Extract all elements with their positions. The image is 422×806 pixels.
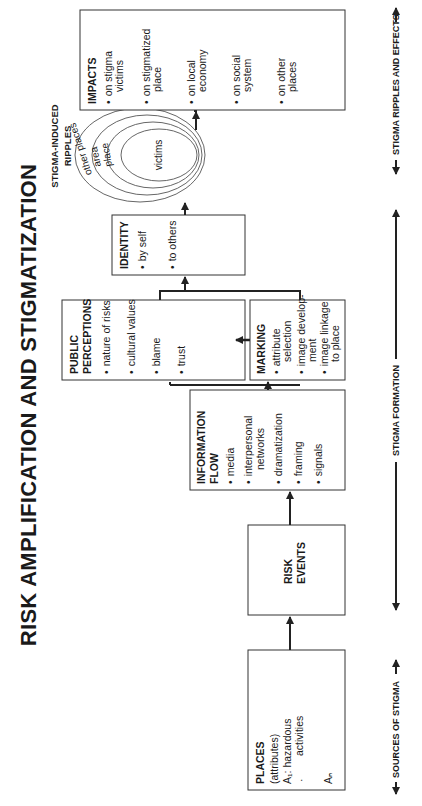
svg-text:•nature of risks: •nature of risks (100, 300, 112, 374)
places-an: Aₙ (322, 773, 334, 784)
impacts-victims: victims (113, 60, 125, 92)
perceptions-heading-1: PUBLIC (68, 335, 80, 375)
places-a1: A₁: hazardous (281, 719, 293, 784)
perceptions-heading-2: PERCEPTIONS (81, 299, 93, 374)
marking-heading: MARKING (255, 324, 267, 374)
impacts-economy: economy (196, 49, 208, 92)
svg-text:•interpersonal: •interpersonal (242, 416, 254, 484)
info-flow-networks: networks (254, 428, 266, 470)
identity-box: IDENTITY •by self •to others (112, 215, 245, 275)
ring-label-victims: victims (153, 140, 164, 171)
perceptions-cultural: cultural values (125, 299, 137, 366)
identity-to-others: to others (166, 220, 178, 261)
public-perceptions-box: PUBLIC PERCEPTIONS •nature of risks •cul… (62, 299, 245, 380)
stigma-ripples: STIGMA-INDUCED RIPPLES other places area… (49, 104, 205, 202)
info-flow-dramatization: dramatization (272, 413, 284, 476)
svg-text:•image develop-: •image develop- (295, 294, 307, 374)
information-flow-box: INFORMATION FLOW •media •interpersonal n… (190, 390, 345, 490)
info-flow-signals: signals (312, 444, 324, 477)
connector-info-split (170, 385, 300, 390)
info-flow-heading-2: FLOW (208, 453, 220, 484)
ripples-label-1: STIGMA-INDUCED (49, 104, 60, 188)
connector-merge (160, 291, 300, 300)
places-box: PLACES (attributes) A₁: hazardous activi… (248, 650, 345, 790)
band-ripples-label: STIGMA RIPPLES AND EFFECTS (391, 14, 401, 155)
risk-events-heading-1: RISK (282, 558, 294, 584)
identity-by-self: by self (136, 231, 148, 261)
impacts-heading: IMPACTS (86, 58, 98, 104)
info-flow-media: media (224, 448, 236, 477)
impacts-box: IMPACTS •on stigma victims •on stigmatiz… (80, 10, 345, 110)
svg-text:•trust: •trust (175, 346, 187, 374)
info-flow-interpersonal: interpersonal (242, 416, 254, 477)
identity-heading: IDENTITY (118, 221, 130, 269)
places-heading: PLACES (254, 741, 266, 784)
places-activities: activities (293, 716, 305, 756)
risk-stigma-diagram: RISK AMPLIFICATION AND STIGMATIZATION PL… (0, 0, 422, 806)
diagram-title: RISK AMPLIFICATION AND STIGMATIZATION (16, 164, 41, 646)
svg-text:•dramatization: •dramatization (272, 413, 284, 484)
places-dot: · (295, 779, 307, 783)
diagram-stage: RISK AMPLIFICATION AND STIGMATIZATION PL… (0, 0, 422, 806)
marking-to-place: to place (329, 325, 341, 362)
marking-selection: selection (281, 320, 293, 362)
marking-ment: ment (306, 339, 318, 362)
marking-box: MARKING •attribute selection •image deve… (250, 294, 345, 380)
info-flow-framing: framing (292, 441, 304, 476)
risk-events-box: RISK EVENTS (248, 525, 345, 615)
band-formation-label: STIGMA FORMATION (391, 365, 401, 456)
places-attributes: (attributes) (268, 734, 280, 784)
perceptions-nature: nature of risks (100, 300, 112, 366)
impacts-place: place (151, 67, 163, 92)
perceptions-blame: blame (150, 338, 162, 367)
impacts-system: system (241, 58, 253, 92)
svg-text:•cultural values: •cultural values (125, 299, 137, 374)
info-flow-heading-1: INFORMATION (195, 411, 207, 484)
stage-bands: SOURCES OF STIGMA STIGMA FORMATION STIGM… (391, 8, 401, 794)
impacts-places: places (286, 62, 298, 92)
risk-events-heading-2: EVENTS (295, 542, 307, 584)
band-sources-label: SOURCES OF STIGMA (391, 680, 401, 778)
perceptions-trust: trust (175, 346, 187, 367)
